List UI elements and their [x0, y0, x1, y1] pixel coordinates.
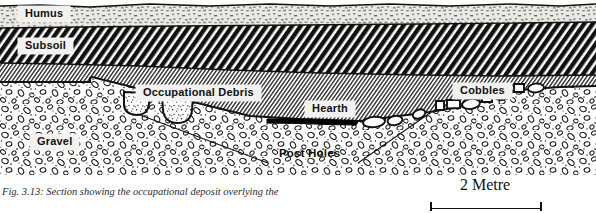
- label-gravel: Gravel: [30, 134, 79, 150]
- label-subsoil: Subsoil: [18, 38, 73, 54]
- scale-bar-tick-right: [540, 202, 542, 211]
- label-cobbles: Cobbles: [453, 83, 512, 99]
- figure-caption: Fig. 3.13: Section showing the occupatio…: [2, 186, 342, 198]
- archaeological-section-figure: Humus Subsoil Occupational Debris Hearth…: [0, 0, 596, 213]
- scale-bar: 2 Metre: [420, 176, 596, 213]
- scale-bar-label: 2 Metre: [460, 176, 510, 194]
- scale-bar-tick-left: [430, 202, 432, 211]
- scale-bar-line: [430, 208, 542, 209]
- label-occupational-debris: Occupational Debris: [136, 85, 261, 101]
- label-humus: Humus: [18, 6, 70, 22]
- label-hearth: Hearth: [305, 101, 355, 117]
- label-post-holes: Post Holes: [272, 146, 347, 162]
